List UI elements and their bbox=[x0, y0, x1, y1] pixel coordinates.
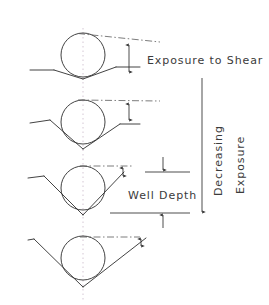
groove-3-left-surface bbox=[28, 176, 44, 178]
decreasing-exposure-indicator: Decreasing Exposure bbox=[202, 78, 247, 212]
groove-2-left-wall bbox=[50, 120, 83, 149]
groove-2-left-surface bbox=[30, 120, 50, 123]
groove-4-left-wall bbox=[34, 239, 83, 287]
groove-3-right-wall bbox=[83, 172, 124, 215]
vgroove-exposure-diagram: Exposure to Shear bbox=[0, 0, 269, 305]
exposure-to-shear-label: Exposure to Shear bbox=[147, 54, 263, 67]
well-depth-dimension: Well Depth bbox=[110, 157, 197, 228]
groove-4-left-surface bbox=[28, 239, 34, 240]
groove-1-right-wall bbox=[83, 67, 116, 79]
exposure-label: Exposure bbox=[234, 136, 247, 194]
well-depth-label: Well Depth bbox=[128, 189, 197, 202]
groove-1-shallow bbox=[30, 33, 160, 79]
groove-2-medium bbox=[30, 100, 160, 149]
groove-4-deepest bbox=[28, 236, 146, 287]
groove-3-deep bbox=[28, 166, 132, 215]
groove-2-right-wall bbox=[83, 124, 120, 149]
diagram-canvas: Exposure to Shear bbox=[0, 0, 269, 305]
groove-1-top-reference-line bbox=[78, 34, 160, 43]
groove-4-right-wall bbox=[83, 238, 146, 287]
decreasing-label: Decreasing bbox=[212, 125, 225, 196]
